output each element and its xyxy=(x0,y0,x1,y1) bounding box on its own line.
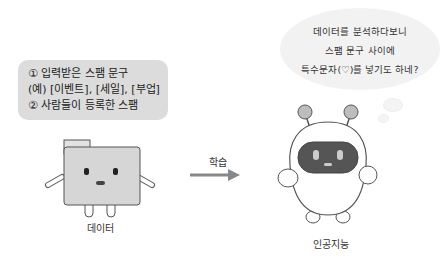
ai-label: 인공지능 xyxy=(296,236,366,251)
learning-label: 학습 xyxy=(198,154,238,169)
bubble-line-2: 스팸 문구 사이에 xyxy=(280,41,440,60)
input-line-3: ② 사람들이 등록한 스팸 xyxy=(28,98,158,114)
speech-bubble-text: 데이터를 분석하다보니 스팸 문구 사이에 특수문자(♡)를 넣기도 하네? xyxy=(280,22,440,79)
bubble-line-1: 데이터를 분석하다보니 xyxy=(280,22,440,41)
input-line-2: (예) [이벤트], [세일], [부업] xyxy=(28,82,158,98)
input-description-box: ① 입력받은 스팸 문구 (예) [이벤트], [세일], [부업] ② 사람들… xyxy=(18,60,168,120)
data-label: 데이터 xyxy=(70,220,130,235)
arrow-right-icon xyxy=(188,168,243,182)
input-line-1: ① 입력받은 스팸 문구 xyxy=(28,66,158,82)
robot-character-icon xyxy=(268,100,388,230)
folder-character-icon xyxy=(40,135,160,220)
bubble-line-3: 특수문자(♡)를 넣기도 하네? xyxy=(280,60,440,79)
